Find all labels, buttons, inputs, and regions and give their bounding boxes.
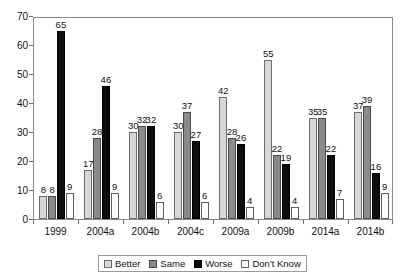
plot-inner: 8865917284693032326303727642282645522194… [34, 18, 392, 219]
bar-value-label: 35 [313, 107, 331, 117]
legend-label: Same [160, 258, 185, 269]
legend-item-better[interactable]: Better [104, 258, 140, 269]
y-axis-tick-label: 20 [17, 156, 33, 168]
legend-swatch-worse-icon [194, 260, 202, 268]
bar-dontknow[interactable] [111, 193, 119, 219]
bar-better[interactable] [84, 170, 92, 219]
bar-better[interactable] [39, 196, 47, 219]
bar-dontknow[interactable] [66, 193, 74, 219]
bar-dontknow[interactable] [291, 207, 299, 219]
bar-same[interactable] [273, 155, 281, 219]
y-axis-tick: 60 [0, 40, 33, 52]
bar-dontknow[interactable] [336, 199, 344, 219]
x-axis-tick-mark [392, 220, 393, 224]
bar-value-label: 46 [97, 75, 115, 85]
legend-item-worse[interactable]: Worse [194, 258, 232, 269]
bar-group: 4228264 [214, 18, 259, 219]
bar-worse[interactable] [57, 31, 65, 220]
y-axis-tick-label: 40 [17, 98, 33, 110]
bar-better[interactable] [174, 132, 182, 219]
bar-same[interactable] [228, 138, 236, 219]
bar-group: 1728469 [79, 18, 124, 219]
bar-group: 3037276 [169, 18, 214, 219]
bar-group: 3032326 [124, 18, 169, 219]
legend-label: Better [115, 258, 140, 269]
bar-same[interactable] [363, 106, 371, 219]
bar-value-label: 39 [358, 95, 376, 105]
y-axis-tick: 50 [0, 69, 33, 81]
bar-value-label: 55 [259, 49, 277, 59]
x-axis-tick-mark [168, 220, 169, 224]
x-axis-tick-mark [213, 220, 214, 224]
bar-value-label: 35 [304, 107, 322, 117]
bar-dontknow[interactable] [381, 193, 389, 219]
x-axis-tick-mark [123, 220, 124, 224]
bar-worse[interactable] [147, 126, 155, 219]
y-axis-tick-label: 30 [17, 127, 33, 139]
x-axis-label-2009b: 2009b [258, 226, 303, 238]
x-axis-tick-mark [33, 220, 34, 224]
bar-value-label: 32 [133, 115, 151, 125]
x-axis-label-2004a: 2004a [78, 226, 123, 238]
legend-swatch-same-icon [149, 260, 157, 268]
x-axis-label-2014a: 2014a [303, 226, 348, 238]
y-axis: 010203040506070 [0, 17, 33, 220]
x-axis-label-1999: 1999 [33, 226, 78, 238]
bar-better[interactable] [129, 132, 137, 219]
plot-area: 8865917284693032326303727642282645522194… [33, 17, 393, 220]
bar-worse[interactable] [192, 141, 200, 219]
bar-group: 5522194 [259, 18, 304, 219]
y-axis-tick: 0 [0, 214, 33, 226]
bar-value-label: 32 [142, 115, 160, 125]
x-axis-tick-mark [303, 220, 304, 224]
bar-same[interactable] [93, 138, 101, 219]
bar-worse[interactable] [237, 144, 245, 219]
bar-better[interactable] [264, 60, 272, 220]
bar-value-label: 65 [52, 20, 70, 30]
legend-label: Worse [205, 258, 232, 269]
bar-same[interactable] [48, 196, 56, 219]
bar-same[interactable] [138, 126, 146, 219]
y-axis-tick: 10 [0, 185, 33, 197]
y-axis-tick: 40 [0, 98, 33, 110]
y-axis-tick-label: 50 [17, 69, 33, 81]
legend-item-same[interactable]: Same [149, 258, 185, 269]
legend-swatch-better-icon [104, 260, 112, 268]
x-axis-label-2009a: 2009a [213, 226, 258, 238]
x-axis: 19992004a2004b2004c2009a2009b2014a2014b [33, 220, 393, 244]
y-axis-tick-label: 70 [17, 11, 33, 23]
bar-value-label: 37 [178, 101, 196, 111]
bar-group: 3535227 [304, 18, 349, 219]
bar-group: 3739169 [349, 18, 394, 219]
bar-better[interactable] [309, 118, 317, 220]
y-axis-tick-label: 60 [17, 40, 33, 52]
y-axis-tick: 30 [0, 127, 33, 139]
legend-label: Don't Know [252, 258, 300, 269]
y-axis-tick: 20 [0, 156, 33, 168]
bar-worse[interactable] [102, 86, 110, 219]
bar-value-label: 42 [214, 86, 232, 96]
bar-better[interactable] [219, 97, 227, 219]
x-axis-tick-mark [348, 220, 349, 224]
bar-same[interactable] [318, 118, 326, 220]
bar-worse[interactable] [372, 173, 380, 219]
legend-swatch-dontknow-icon [241, 260, 249, 268]
bar-dontknow[interactable] [246, 207, 254, 219]
bar-group: 88659 [34, 18, 79, 219]
y-axis-tick: 70 [0, 11, 33, 23]
bar-better[interactable] [354, 112, 362, 219]
bar-same[interactable] [183, 112, 191, 219]
chart-legend: BetterSameWorseDon't Know [98, 255, 307, 272]
x-axis-label-2004c: 2004c [168, 226, 213, 238]
bar-value-label: 8 [34, 185, 52, 195]
y-axis-tick-label: 10 [17, 185, 33, 197]
bar-worse[interactable] [282, 164, 290, 219]
bar-chart: 010203040506070 886591728469303232630372… [0, 0, 420, 279]
bar-dontknow[interactable] [156, 202, 164, 219]
bar-worse[interactable] [327, 155, 335, 219]
bar-dontknow[interactable] [201, 202, 209, 219]
y-axis-tick-label: 0 [22, 214, 33, 226]
legend-item-dontknow[interactable]: Don't Know [241, 258, 300, 269]
x-axis-label-2014b: 2014b [348, 226, 393, 238]
x-axis-tick-mark [258, 220, 259, 224]
